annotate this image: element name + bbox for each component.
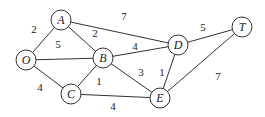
node-B: B <box>93 48 113 68</box>
edge-weight-B-E: 3 <box>138 66 144 78</box>
edge-O-B <box>26 58 103 60</box>
edge-C-E <box>71 94 160 98</box>
edge-weight-O-B: 5 <box>55 38 61 50</box>
edge-B-D <box>103 45 178 58</box>
edge-weight-D-T: 5 <box>200 21 206 33</box>
edge-weight-A-B: 2 <box>92 27 98 39</box>
node-O: O <box>16 50 36 70</box>
edge-weight-C-E: 4 <box>110 100 116 112</box>
node-label: O <box>22 53 31 67</box>
edge-weight-D-E: 1 <box>159 66 165 78</box>
node-C: C <box>61 84 81 104</box>
node-label: D <box>173 38 183 52</box>
node-D: D <box>168 35 188 55</box>
node-label: E <box>155 91 164 105</box>
node-label: B <box>99 51 107 65</box>
edge-A-D <box>61 20 178 45</box>
node-E: E <box>150 88 170 108</box>
node-label: A <box>56 13 65 27</box>
edge-weight-O-C: 4 <box>37 81 43 93</box>
node-A: A <box>51 10 71 30</box>
weighted-graph-diagram: 254274134157 AOBCDTE <box>0 0 265 117</box>
edge-weight-O-A: 2 <box>31 23 37 35</box>
edges <box>26 20 242 98</box>
edge-weight-B-D: 4 <box>132 40 138 52</box>
edge-weight-B-C: 1 <box>96 75 102 87</box>
edge-weight-E-T: 7 <box>215 70 221 82</box>
edge-weight-A-D: 7 <box>121 10 127 22</box>
node-label: C <box>67 87 76 101</box>
node-T: T <box>232 17 252 37</box>
